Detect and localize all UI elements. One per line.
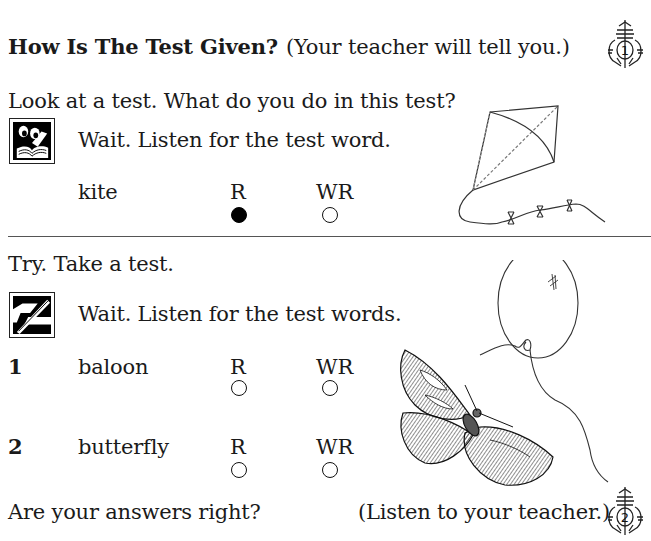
kite-illustration <box>450 100 650 235</box>
intro-prompt: Wait. Listen for the test word. <box>78 128 391 152</box>
item-2-label-wr: WR <box>316 435 353 459</box>
teacher-instruction: (Your teacher will tell you.) <box>286 35 570 59</box>
intro-question: Look at a test. What do you do in this t… <box>8 89 455 113</box>
section-divider <box>8 236 651 237</box>
ornament-badge-icon: 1 <box>605 18 645 70</box>
footer-question: Are your answers right? <box>8 500 261 524</box>
pencil-writing-icon <box>9 292 55 338</box>
example-bubble-wr[interactable] <box>322 207 338 223</box>
practice-heading: Try. Take a test. <box>8 252 174 276</box>
step-badge-2: 2 <box>605 485 645 537</box>
item-1-label-wr: WR <box>316 355 353 379</box>
item-1-label-r: R <box>230 355 246 379</box>
item-1-word: baloon <box>78 355 148 379</box>
page-title: How Is The Test Given? <box>8 35 278 59</box>
option-label-wr: WR <box>316 180 353 204</box>
butterfly-illustration <box>395 345 575 495</box>
svg-text:1: 1 <box>621 43 629 58</box>
footer-instruction: (Listen to your teacher.) <box>358 500 610 524</box>
reading-book-icon <box>9 118 55 164</box>
practice-prompt: Wait. Listen for the test words. <box>78 302 401 326</box>
item-2-number: 2 <box>8 435 22 459</box>
item-1-number: 1 <box>8 355 22 379</box>
example-word: kite <box>78 180 118 204</box>
item-2-word: butterfly <box>78 435 169 459</box>
item-1-bubble-r[interactable] <box>231 380 247 396</box>
example-bubble-r-filled[interactable] <box>231 207 247 223</box>
option-label-r: R <box>230 180 246 204</box>
item-1-bubble-wr[interactable] <box>322 380 338 396</box>
item-2-label-r: R <box>230 435 246 459</box>
step-badge-1: 1 <box>605 18 645 70</box>
item-2-bubble-r[interactable] <box>231 462 247 478</box>
svg-text:2: 2 <box>621 510 629 525</box>
ornament-badge-icon: 2 <box>605 485 645 537</box>
item-2-bubble-wr[interactable] <box>322 462 338 478</box>
